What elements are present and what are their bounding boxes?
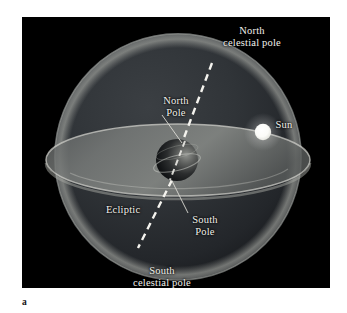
celestial-sphere-illustration-panel: North celestial pole North Pole Sun Ecli… xyxy=(22,17,330,288)
sun-body xyxy=(244,113,282,151)
figure-caption-letter: a xyxy=(22,297,27,307)
figure-root: North celestial pole North Pole Sun Ecli… xyxy=(0,0,347,313)
celestial-sphere-scene xyxy=(22,17,330,288)
